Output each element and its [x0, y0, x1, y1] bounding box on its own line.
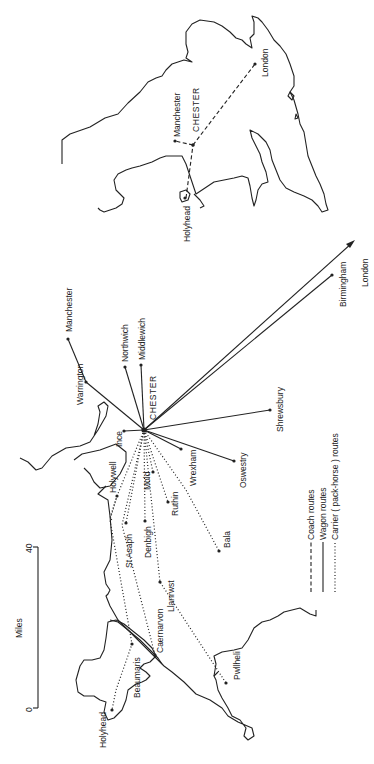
label-chester: CHESTER — [148, 375, 158, 420]
wagon-route-chester-birmingham — [144, 275, 332, 430]
label-birmingham: Birmingham — [338, 262, 348, 307]
coastline-anglesey — [76, 620, 156, 720]
label-caernarvon: Caernarvon — [155, 608, 165, 653]
label-ince: Ince — [114, 431, 124, 447]
scale-bar-unit-label: Miles — [14, 618, 24, 638]
label-oswestry: Oswestry — [238, 452, 248, 488]
label-st-asaph: St Asaph — [124, 534, 134, 568]
label-pwllheli: Pwllheli — [232, 651, 242, 680]
town-markers — [66, 273, 333, 711]
inset-chester-marker — [191, 143, 195, 147]
pwllheli-marker — [224, 681, 227, 684]
wagon-route-chester-london — [144, 243, 352, 430]
scale-bar-min-label: 0 — [24, 707, 34, 712]
label-holywell: Holywell — [108, 461, 118, 493]
label-wrexham: Wrexham — [188, 450, 198, 486]
inset-london-marker — [253, 62, 256, 65]
birmingham-marker — [330, 273, 333, 276]
holyhead-marker — [110, 708, 113, 711]
legend-wagon-label: Wagon routes — [318, 487, 328, 540]
label-llanrwst: Llanrwst — [166, 580, 176, 612]
inset-coach-route-holyhead-chester — [186, 145, 193, 198]
wrexham-marker — [179, 447, 182, 450]
denbigh-marker — [143, 519, 146, 522]
middlewich-marker — [139, 363, 142, 366]
label-manchester: Manchester — [64, 287, 74, 332]
carrier-route-chester-mold — [144, 430, 153, 472]
chester-routes-map: CHESTER Manchester London Holyhead — [0, 0, 374, 764]
coastline-cardigan-bay — [214, 608, 316, 676]
legend: Coach routes Wagon routes Carrier ( pack… — [306, 433, 340, 592]
oswestry-marker — [232, 459, 235, 462]
legend-coach-label: Coach routes — [306, 489, 316, 540]
inset-anglesey — [180, 190, 190, 202]
wagon-routes — [68, 240, 355, 461]
coastline-north-wales — [98, 486, 254, 740]
llanrwst-marker — [158, 580, 161, 583]
label-ruthin: Ruthin — [170, 491, 180, 516]
inset-map: CHESTER Manchester London Holyhead — [62, 16, 328, 242]
carrier-routes — [110, 430, 226, 710]
wagon-route-chester-warrington — [86, 382, 144, 430]
label-warrington: Warrington — [75, 363, 85, 405]
coastline-dee-estuary — [74, 444, 126, 488]
label-london: London — [360, 258, 370, 287]
scale-bar-max-label: 40 — [24, 543, 34, 553]
scale-bar: 40 0 Miles — [14, 543, 38, 712]
label-denbigh: Denbigh — [143, 526, 153, 558]
inset-manchester-marker — [173, 139, 176, 142]
carrier-route-holywell-beaumaris-holyhead — [110, 496, 132, 710]
coastline-mersey — [20, 402, 108, 470]
inset-coastline-bay — [194, 194, 204, 208]
wagon-route-chester-wrexham — [144, 430, 181, 449]
inset-east-anglia-islets — [288, 92, 298, 119]
inset-label-manchester: Manchester — [172, 92, 182, 137]
shrewsbury-marker — [268, 408, 271, 411]
wagon-route-chester-ince — [124, 430, 144, 431]
manchester-marker — [66, 337, 69, 340]
label-northwich: Northwich — [120, 324, 130, 362]
beaumaris-marker — [130, 642, 133, 645]
holywell-marker — [115, 494, 118, 497]
legend-carrier-label: Carrier ( pack-horse ) routes — [330, 433, 340, 540]
label-shrewsbury: Shrewsbury — [275, 386, 285, 432]
inset-label-chester: CHESTER — [191, 87, 201, 132]
st-asaph-marker — [124, 521, 127, 524]
label-beaumaris: Beaumaris — [132, 657, 142, 698]
label-bala: Bala — [222, 531, 232, 548]
inset-coach-route-chester-london — [193, 64, 255, 145]
label-mold: Mold — [142, 471, 152, 490]
inset-label-london: London — [260, 48, 270, 77]
label-middlewich: Middlewich — [137, 318, 147, 360]
inset-coach-route-chester-manchester — [175, 141, 193, 145]
label-holyhead: Holyhead — [98, 712, 108, 748]
bala-marker — [217, 549, 220, 552]
inset-holyhead-marker — [183, 196, 186, 199]
chester-marker — [141, 427, 146, 432]
inset-label-holyhead: Holyhead — [182, 206, 192, 242]
main-map-coastline — [20, 402, 316, 740]
northwich-marker — [123, 365, 126, 368]
